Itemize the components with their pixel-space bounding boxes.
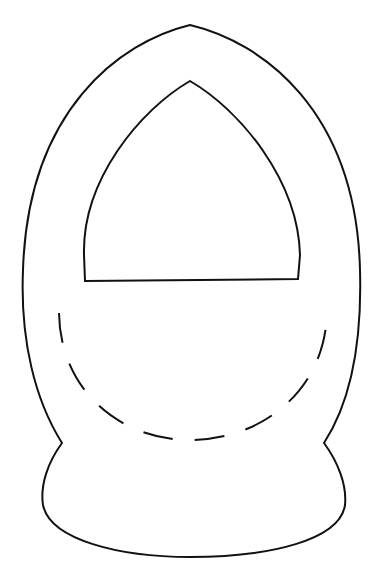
background — [0, 0, 373, 587]
basket-template-drawing — [0, 0, 373, 587]
basket-svg — [0, 0, 373, 587]
